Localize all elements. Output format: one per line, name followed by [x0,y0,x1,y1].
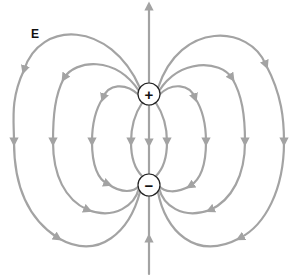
field-line-left-inner [103,86,139,98]
field-line-right-innermost [156,103,167,142]
field-line-right-inner [159,86,195,98]
field-line-left-innermost [131,103,142,142]
positive-charge-symbol: + [145,86,154,103]
positive-charge: + [138,83,160,105]
negative-charge: − [138,174,160,196]
field-line-right-outer [158,36,266,88]
field-line-left-outer [24,34,140,88]
field-label-e: E [31,27,39,41]
negative-charge-symbol: − [145,177,154,194]
field-lines-canvas: + − [0,0,296,280]
